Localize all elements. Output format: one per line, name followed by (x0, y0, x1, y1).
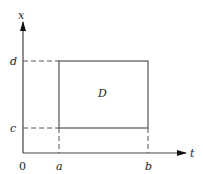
tick-d: d (10, 55, 17, 68)
tick-a: a (56, 160, 63, 173)
dashed-guides (23, 61, 148, 153)
y-axis-label: x (18, 9, 25, 22)
region-label: D (97, 87, 107, 100)
x-axis-label: t (190, 147, 195, 160)
tick-b: b (145, 160, 152, 173)
rectangle-region-diagram: x t 0 a b c d D (0, 0, 203, 174)
tick-c: c (10, 122, 16, 135)
origin-label: 0 (19, 160, 26, 173)
